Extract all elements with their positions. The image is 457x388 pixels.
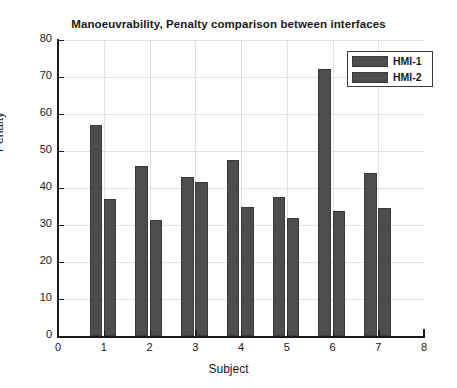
bar-hmi-2-subject-5 <box>287 218 300 336</box>
x-tick-label-3: 3 <box>192 341 198 353</box>
x-tick-label-8: 8 <box>421 341 427 353</box>
x-axis-label: Subject <box>0 362 457 376</box>
chart-title: Manoeuvrability, Penalty comparison betw… <box>0 18 457 30</box>
x-tick-mark-4 <box>241 330 242 337</box>
bar-hmi-2-subject-2 <box>150 220 163 336</box>
legend-label-hmi-2: HMI-2 <box>393 72 422 83</box>
x-tick-label-5: 5 <box>284 341 290 353</box>
y-tick-mark-20 <box>58 262 64 263</box>
x-tick-label-7: 7 <box>375 341 381 353</box>
bar-hmi-1-subject-2 <box>135 166 148 336</box>
y-tick-mark-80 <box>58 40 64 41</box>
bar-hmi-2-subject-3 <box>195 182 208 336</box>
x-tick-label-1: 1 <box>101 341 107 353</box>
legend-swatch-hmi-2 <box>352 72 388 83</box>
x-tick-label-2: 2 <box>146 341 152 353</box>
bar-hmi-1-subject-7 <box>364 173 377 336</box>
y-tick-mark-60 <box>58 114 64 115</box>
bar-hmi-2-subject-4 <box>241 207 254 337</box>
bar-hmi-1-subject-4 <box>227 160 240 336</box>
y-tick-mark-40 <box>58 188 64 189</box>
x-axis-end-cap <box>423 329 425 337</box>
chart-legend: HMI-1 HMI-2 <box>347 51 433 87</box>
bar-hmi-2-subject-7 <box>378 208 391 336</box>
bar-hmi-1-subject-3 <box>181 177 194 336</box>
bar-hmi-1-subject-1 <box>90 125 103 336</box>
legend-label-hmi-1: HMI-1 <box>393 56 422 67</box>
legend-swatch-hmi-1 <box>352 56 388 67</box>
x-tick-mark-6 <box>333 330 334 337</box>
x-tick-mark-0 <box>58 330 59 337</box>
y-tick-mark-10 <box>58 299 64 300</box>
x-tick-label-6: 6 <box>329 341 335 353</box>
legend-item-hmi-2: HMI-2 <box>352 71 422 84</box>
x-tick-mark-7 <box>378 330 379 337</box>
bar-hmi-2-subject-1 <box>104 199 117 336</box>
x-tick-mark-1 <box>104 330 105 337</box>
y-tick-mark-50 <box>58 151 64 152</box>
x-tick-mark-2 <box>150 330 151 337</box>
x-tick-mark-3 <box>195 330 196 337</box>
legend-item-hmi-1: HMI-1 <box>352 55 422 68</box>
x-tick-label-4: 4 <box>238 341 244 353</box>
x-tick-label-0: 0 <box>55 341 61 353</box>
y-tick-mark-70 <box>58 77 64 78</box>
y-tick-mark-30 <box>58 225 64 226</box>
x-tick-mark-5 <box>287 330 288 337</box>
bar-hmi-1-subject-6 <box>318 69 331 337</box>
bar-hmi-1-subject-5 <box>273 197 286 336</box>
y-axis-label: Penalty <box>0 112 6 152</box>
chart-figure: Manoeuvrability, Penalty comparison betw… <box>0 0 457 388</box>
bar-hmi-2-subject-6 <box>333 211 346 336</box>
